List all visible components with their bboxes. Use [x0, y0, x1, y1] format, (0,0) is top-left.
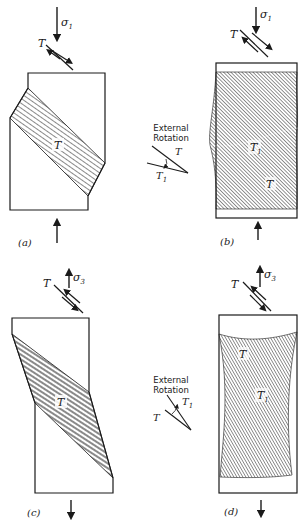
caption-d: (d) [224, 506, 238, 517]
shear-sense-arrows-c [54, 285, 83, 313]
panel-d: σ3 T T T1 (d) [219, 268, 297, 517]
panel-c: σ3 T T (c) [12, 271, 113, 518]
rotation-text-line1: External [153, 123, 188, 133]
caption-a: (a) [18, 237, 32, 248]
sigma-label-b: σ1 [260, 8, 272, 23]
shear-label-d: T [231, 278, 240, 291]
deformation-figure: σ1 T T (a) External Rotation T T1 σ1 T [0, 0, 308, 525]
caption-c: (c) [27, 507, 41, 518]
rotation-text-line2: Rotation [153, 385, 189, 395]
shear-sense-arrows-a [46, 45, 73, 70]
sigma-label-c: σ3 [73, 271, 86, 286]
shear-label-c: T [43, 277, 52, 290]
rotation-text-line2: Rotation [153, 133, 189, 143]
shear-sense-arrows-d [243, 282, 271, 311]
panel-b: σ1 T T1 T (b) [210, 7, 298, 247]
shear-sense-arrows-b [240, 30, 270, 57]
sigma-label-a: σ1 [61, 16, 73, 31]
shear-label-a: T [38, 37, 47, 50]
rotation-text-line1: External [153, 375, 188, 385]
svg-text:T1: T1 [182, 396, 193, 410]
panel-a: σ1 T T (a) [10, 7, 105, 248]
deformed-zone-d [219, 332, 297, 478]
svg-text:T: T [153, 412, 161, 423]
sigma-label-d: σ3 [264, 268, 277, 283]
external-rotation-inset-2: External Rotation T1 T [153, 375, 193, 430]
external-rotation-inset-1: External Rotation T T1 [147, 123, 189, 184]
svg-text:T: T [175, 146, 183, 157]
svg-text:T1: T1 [156, 170, 167, 184]
caption-b: (b) [220, 236, 234, 247]
shear-label-b: T [230, 28, 239, 41]
